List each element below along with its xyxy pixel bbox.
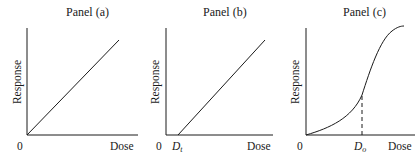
panel-c: Panel (c) Response 0 Do Dose <box>289 5 415 154</box>
panel-c-sigmoid <box>306 26 404 135</box>
panel-b-title: Panel (b) <box>203 5 247 19</box>
panel-b-xlabel: Dose <box>247 140 271 152</box>
panel-b-line <box>178 40 265 135</box>
panel-a-origin: 0 <box>17 140 23 152</box>
panel-c-origin: 0 <box>297 140 303 152</box>
panel-b: Panel (b) Response 0 Dt Dose <box>149 5 273 154</box>
panel-b-origin: 0 <box>156 140 162 152</box>
dose-response-figure: Panel (a) Response 0 Dose Panel (b) Resp… <box>0 0 419 156</box>
panel-c-axes <box>306 28 415 135</box>
panel-c-xlabel: Dose <box>388 140 412 152</box>
panel-b-ylabel: Response <box>149 60 162 104</box>
panel-a-line <box>27 40 119 135</box>
panel-a-title: Panel (a) <box>66 5 109 19</box>
panel-a: Panel (a) Response 0 Dose <box>11 5 138 152</box>
panel-a-ylabel: Response <box>11 60 24 104</box>
panel-a-xlabel: Dose <box>110 140 134 152</box>
panel-b-axes <box>166 28 273 135</box>
panel-b-threshold-label: Dt <box>171 140 183 154</box>
panel-c-inflection-label: Do <box>353 140 366 154</box>
panel-c-title: Panel (c) <box>343 5 386 19</box>
panel-c-ylabel: Response <box>289 60 302 104</box>
panel-a-axes <box>27 28 138 135</box>
